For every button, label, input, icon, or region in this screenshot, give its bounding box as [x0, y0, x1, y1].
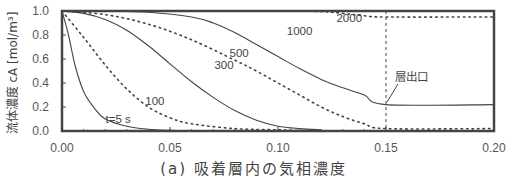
x-tick-label: 0.15 [374, 141, 398, 155]
curve-label: 300 [214, 59, 233, 71]
curve-label: 500 [230, 47, 249, 59]
curve-label: 2000 [336, 12, 362, 24]
y-tick-label: 0.6 [32, 52, 49, 66]
concentration-profile-chart: 0.000.050.100.150.200.00.20.40.60.81.0 t… [0, 0, 507, 176]
axis-ticks: 0.000.050.100.150.200.00.20.40.60.81.0 [32, 4, 506, 155]
figure-caption: (a) 吸着層内の気相濃度 [0, 157, 507, 176]
y-tick-label: 0.0 [32, 124, 49, 138]
x-tick-label: 0.00 [50, 141, 74, 155]
y-tick-label: 0.2 [32, 100, 49, 114]
curve-label: t=5 s [106, 113, 132, 125]
y-tick-label: 0.8 [32, 28, 49, 42]
series-1000-s [62, 11, 494, 105]
curve-label: 層出口 [395, 70, 428, 83]
x-tick-label: 0.05 [158, 141, 182, 155]
series-100-s [62, 11, 321, 131]
curve-label: 100 [145, 95, 164, 107]
y-tick-label: 1.0 [32, 4, 49, 18]
curve-label: 1000 [287, 25, 313, 37]
outlet-leader-line [387, 84, 398, 102]
series-500-s [62, 11, 494, 129]
x-tick-label: 0.10 [266, 141, 290, 155]
x-tick-label: 0.20 [482, 141, 506, 155]
y-tick-label: 0.4 [32, 76, 49, 90]
curve-labels: t=5 s10030050010002000層出口 [106, 12, 429, 125]
y-axis-label: 流体濃度 cA [mol/m³] [1, 6, 21, 140]
series-300-s [62, 11, 321, 130]
